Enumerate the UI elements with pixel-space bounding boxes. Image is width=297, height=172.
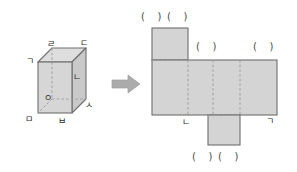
prism-label-top-front-right: ㄴ [73, 73, 81, 82]
net-label-bottom-left-vertex: ㄴ [182, 118, 190, 127]
net-blank-mid-right[interactable]: ( ) [253, 42, 274, 52]
net-and-solid-figure: ㄹ ㄷ ㄱ ㄴ ㅇ ㅅ ㅁ ㅂ ( ) ( ) ( ) ( ) ( ) ( ) … [0, 0, 297, 172]
net-blank-top-right[interactable]: ( ) [167, 12, 188, 22]
prism-front-face [38, 62, 72, 113]
net-face-bottom-flap [208, 115, 240, 145]
net-blank-bottom-left[interactable]: ( ) [192, 152, 213, 162]
net-blank-mid-left[interactable]: ( ) [196, 42, 217, 52]
arrow-right-icon [112, 75, 140, 93]
prism-label-bottom-back-right: ㅅ [85, 101, 93, 110]
prism-label-bottom-front-right: ㅂ [58, 117, 66, 126]
prism-label-bottom-back-left: ㅇ [44, 94, 52, 103]
prism-label-top-front-left: ㄱ [26, 57, 34, 66]
prism-label-top-back-left: ㄹ [47, 40, 55, 49]
net-label-bottom-right-vertex: ㄱ [266, 117, 274, 126]
figure-canvas [0, 0, 297, 172]
prism-label-top-back-right: ㄷ [80, 39, 88, 48]
net-face-top-flap [152, 28, 188, 60]
net-face-strip [152, 60, 277, 115]
net-blank-bottom-right[interactable]: ( ) [218, 152, 239, 162]
net-blank-top-left[interactable]: ( ) [141, 12, 162, 22]
prism-label-bottom-front-left: ㅁ [25, 115, 33, 124]
